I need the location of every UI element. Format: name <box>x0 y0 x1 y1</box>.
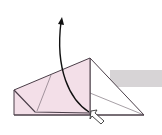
pink-folded-layer <box>14 58 90 115</box>
arrowhead-icon <box>58 17 64 25</box>
gray-band <box>110 70 162 87</box>
origami-diagram <box>0 0 162 135</box>
